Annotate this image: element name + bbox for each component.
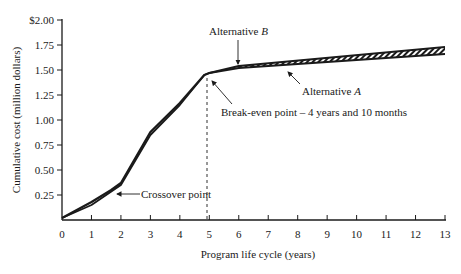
series-alternative-b: [62, 47, 445, 218]
y-tick-label: 0.75: [35, 139, 55, 151]
x-tick-label: 3: [148, 228, 154, 240]
x-tick-label: 11: [381, 228, 392, 240]
annotation-alternative-a: Alternative A: [288, 72, 361, 97]
x-tick-label: 6: [236, 228, 242, 240]
x-axis-label: Program life cycle (years): [201, 248, 316, 261]
x-tick-label: 0: [59, 228, 65, 240]
y-tick-label: 0.25: [35, 189, 55, 201]
y-ticks: 0.250.500.751.001.251.501.75$2.00: [29, 14, 62, 201]
x-tick-label: 1: [89, 228, 95, 240]
crossover-label: Crossover point: [141, 188, 211, 200]
break-even-arrow: [212, 81, 232, 104]
y-tick-label: 1.50: [35, 64, 55, 76]
series-alternative-a: [62, 54, 445, 218]
break-even-label: Break-even point – 4 years and 10 months: [221, 106, 407, 118]
y-tick-label: 1.75: [35, 39, 55, 51]
alternative-b-label: Alternative B: [209, 25, 268, 37]
x-tick-label: 4: [177, 228, 183, 240]
annotation-alternative-b: Alternative B: [209, 25, 268, 64]
y-tick-label: 1.25: [35, 89, 55, 101]
annotation-crossover: Crossover point: [117, 188, 211, 200]
y-tick-label: 1.00: [35, 114, 55, 126]
x-tick-label: 9: [324, 228, 330, 240]
y-tick-label: $2.00: [29, 14, 54, 26]
x-tick-label: 12: [410, 228, 421, 240]
x-tick-label: 13: [440, 228, 452, 240]
x-tick-label: 7: [265, 228, 271, 240]
axes: [62, 19, 446, 220]
y-tick-label: 0.50: [35, 164, 55, 176]
x-tick-label: 5: [207, 228, 213, 240]
x-tick-label: 8: [295, 228, 301, 240]
cumulative-cost-chart: 0.250.500.751.001.251.501.75$2.00 012345…: [0, 0, 461, 274]
x-ticks: 012345678910111213: [59, 215, 451, 240]
x-tick-label: 2: [118, 228, 124, 240]
alternative-a-label: Alternative A: [302, 85, 361, 97]
y-axis-label: Cumulative cost (million dollars): [10, 46, 23, 193]
alternative-a-arrow: [288, 72, 300, 84]
x-tick-label: 10: [351, 228, 363, 240]
